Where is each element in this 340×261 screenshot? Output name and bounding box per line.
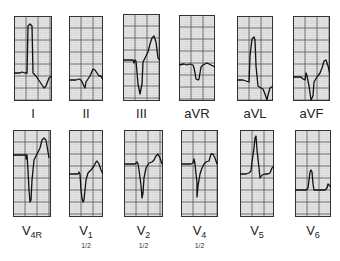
ecg-lead-v4r <box>13 130 51 217</box>
ecg-lead-avl <box>237 16 273 101</box>
ecg-lead-v4 <box>181 130 218 217</box>
lead-gain-note: 1/2 <box>59 242 113 249</box>
lead-label-v1: V1 <box>59 224 113 240</box>
ecg-lead-ii <box>69 16 103 101</box>
lead-label-avl: aVL <box>227 107 283 120</box>
lead-label-v5: V5 <box>230 224 284 240</box>
ecg-lead-v5 <box>240 130 274 217</box>
ecg-lead-v6 <box>295 130 331 217</box>
lead-label-iii: III <box>113 107 170 120</box>
lead-label-avr: aVR <box>169 107 225 120</box>
lead-gain-note: 1/2 <box>171 242 228 249</box>
lead-label-v4: V4 <box>171 224 228 240</box>
ecg-lead-avf <box>293 16 330 101</box>
lead-label-v6: V6 <box>285 224 340 240</box>
ecg-lead-iii <box>123 14 160 101</box>
ecg-lead-v1 <box>69 130 103 217</box>
lead-label-i: I <box>4 107 62 120</box>
lead-label-v4r: V4R <box>3 224 61 240</box>
ecg-lead-avr <box>179 15 215 101</box>
ecg-lead-v2 <box>124 130 163 217</box>
lead-gain-note: 1/2 <box>114 242 173 249</box>
lead-label-v2: V2 <box>114 224 173 240</box>
lead-label-avf: aVF <box>283 107 340 120</box>
ecg-lead-i <box>14 16 52 101</box>
lead-label-ii: II <box>59 107 113 120</box>
